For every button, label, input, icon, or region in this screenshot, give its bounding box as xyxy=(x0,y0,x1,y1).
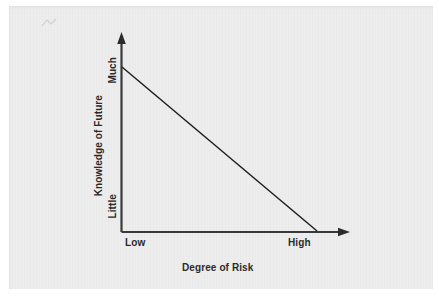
arrow-up-icon xyxy=(117,32,126,44)
data-series-line xyxy=(122,67,317,231)
y-axis-tick-label-little: Little xyxy=(107,194,118,219)
scanned-figure-screenshot: Much Little Knowledge of Future Low High… xyxy=(0,0,439,296)
x-axis-tick-label-high: High xyxy=(288,237,311,248)
y-axis-title: Knowledge of Future xyxy=(93,95,104,196)
x-axis-tick-label-low: Low xyxy=(125,237,145,248)
chart-canvas xyxy=(0,0,439,296)
arrow-right-icon xyxy=(338,228,350,237)
y-axis-tick-label-much: Much xyxy=(107,57,118,84)
x-axis-title: Degree of Risk xyxy=(182,262,253,273)
